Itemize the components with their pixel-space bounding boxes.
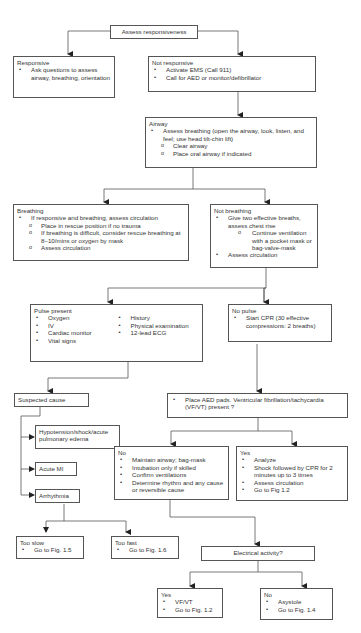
cause-arrhythmia-label: Arrhythmia [39,492,69,499]
airway-title: Airway [149,120,313,127]
assess-responsiveness-box: Assess responsiveness [110,25,198,39]
ea-no-box: No Asystole Go to Fig. 1.4 [260,588,333,620]
no-pulse-box: No pulse Start CPR (30 effective compres… [228,304,332,342]
breathing-box: Breathing If responsive and breathing, a… [13,204,189,261]
not-breathing-item: Give two effective breaths, assess chest… [214,214,314,229]
airway-box: Airway Assess breathing (open the airway… [145,117,317,168]
vf-no-box: No Maintain airway; bag-mask Intubation … [114,446,229,500]
vf-yes-item: Go to Fig 1.2 [240,486,344,493]
vf-no-item: Confirm ventilations [118,471,225,478]
breathing-title: Breathing [17,207,185,214]
vf-yes-item: Assess circulation [240,479,344,486]
too-slow-item: Go to Fig. 1.5 [20,546,80,553]
not-responsive-item: Activate EMS (Call 911) [152,66,312,73]
pulse-present-item: History [117,314,200,321]
aed-item: Place AED pads. Ventricular fibrillation… [171,396,344,411]
not-breathing-item: Assess circulation [214,251,314,258]
too-slow-box: Too slow Go to Fig. 1.5 [16,536,84,559]
responsive-title: Responsive [17,59,111,66]
too-slow-title: Too slow [20,539,80,546]
pulse-present-title: Pulse present [34,307,199,314]
cause-hypotension-label: Hypotension/shock/acute pulmonary edema [39,428,108,442]
ea-yes-title: Yes [161,591,219,598]
airway-subitem: Place oral airway if indicated [149,150,313,157]
ea-yes-item: VF/VT [161,598,219,605]
vf-no-item: Determine rhythm and any cause or revers… [118,479,225,494]
pulse-present-item: Physical examination [117,322,200,329]
vf-no-item: Intubation only if skilled [118,464,225,471]
not-breathing-subitem: Continue ventilation with a pocket mask … [214,229,314,251]
breathing-subitem: Assess circulation [17,244,185,251]
pulse-present-item: IV [34,322,117,329]
suspected-cause-label: Suspected cause [18,396,65,403]
no-pulse-item: Start CPR (30 effective compressions: 2 … [232,314,328,329]
pulse-present-box: Pulse present Oxygen IV Cardiac monitor … [30,304,203,362]
vf-no-title: No [118,449,225,456]
vf-yes-title: Yes [240,449,344,456]
electrical-activity-box: Electrical activity? [201,546,315,561]
pulse-present-item: Cardiac monitor [34,329,117,336]
vf-yes-item: Analyze [240,456,344,463]
ea-no-title: No [264,591,329,598]
breathing-item: If responsive and breathing, assess circ… [17,214,185,221]
breathing-subitem: If breathing is difficult, consider resc… [17,229,185,244]
pulse-present-item: 12-lead ECG [117,329,200,336]
ea-no-item: Go to Fig. 1.4 [264,606,329,613]
not-responsive-box: Not responsive Activate EMS (Call 911) C… [148,56,316,92]
cause-arrhythmia-box: Arrhythmia [35,489,80,503]
assess-responsiveness-label: Assess responsiveness [122,28,187,35]
pulse-present-item: Vital signs [34,337,117,344]
too-fast-box: Too fast Go to Fig. 1.6 [111,536,179,559]
cause-acute-mi-box: Acute MI [35,462,77,476]
responsive-box: Responsive Ask questions to assess airwa… [13,56,115,98]
aed-box: Place AED pads. Ventricular fibrillation… [167,393,348,418]
cause-hypotension-box: Hypotension/shock/acute pulmonary edema [35,425,120,449]
cause-acute-mi-label: Acute MI [39,465,63,472]
too-fast-title: Too fast [115,539,175,546]
ea-yes-box: Yes VF/VT Go to Fig. 1.2 [157,588,223,618]
not-responsive-title: Not responsive [152,59,312,66]
vf-yes-box: Yes Analyze Shock followed by CPR for 2 … [236,446,348,501]
airway-subitem: Clear airway [149,142,313,149]
not-breathing-box: Not breathing Give two effective breaths… [210,204,318,268]
ea-yes-item: Go to Fig. 1.2 [161,606,219,613]
airway-item: Assess breathing (open the airway, look,… [149,127,313,142]
vf-yes-item: Shock followed by CPR for 2 minutes up t… [240,464,344,479]
pulse-present-item: Oxygen [34,314,117,321]
no-pulse-title: No pulse [232,307,328,314]
vf-no-item: Maintain airway; bag-mask [118,456,225,463]
electrical-activity-label: Electrical activity? [233,549,282,556]
too-fast-item: Go to Fig. 1.6 [115,546,175,553]
responsive-item: Ask questions to assess airway, breathin… [17,66,111,81]
breathing-subitem: Place in rescue position if no trauma [17,222,185,229]
ea-no-item: Asystole [264,598,329,605]
suspected-cause-box: Suspected cause [14,393,89,407]
not-responsive-item: Call for AED or monitor/defibrillator [152,74,312,81]
not-breathing-title: Not breathing [214,207,314,214]
